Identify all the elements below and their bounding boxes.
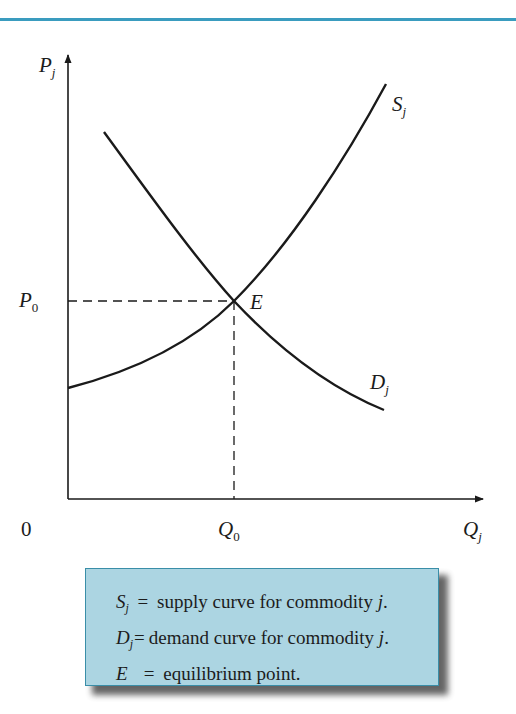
legend-tail: .: [384, 627, 389, 648]
x-axis-label-sub: j: [478, 529, 482, 544]
demand-label-main: D: [370, 370, 385, 394]
legend-symbol-main: D: [116, 627, 130, 648]
legend-text: demand curve for commodity: [149, 627, 379, 648]
legend-row-demand: Dj=demand curve for commodity j.: [116, 623, 438, 659]
demand-curve: [104, 132, 384, 410]
supply-label-sub: j: [403, 104, 407, 119]
legend-text: supply curve for commodity: [157, 591, 378, 612]
legend-equals: =: [134, 623, 145, 653]
q0-label-main: Q: [218, 517, 233, 541]
legend-row-equilibrium: E = equilibrium point.: [116, 659, 438, 689]
x-axis-label-main: Q: [463, 517, 478, 541]
legend-tail: .: [383, 591, 388, 612]
legend-symbol: Dj: [116, 623, 133, 659]
demand-label: Dj: [370, 372, 389, 396]
y-axis-label: Pj: [39, 55, 55, 79]
legend-symbol-main: S: [116, 591, 126, 612]
origin-label: 0: [21, 519, 32, 540]
q0-label-sub: 0: [233, 529, 240, 544]
equilibrium-label-main: E: [250, 290, 263, 314]
p0-label: P0: [19, 290, 38, 314]
legend-symbol: E: [116, 659, 135, 689]
equilibrium-label: E: [250, 292, 263, 313]
legend-text: equilibrium point.: [163, 663, 300, 684]
legend-symbol-main: E: [116, 663, 128, 684]
supply-label: Sj: [392, 94, 406, 118]
p0-label-sub: 0: [32, 300, 39, 315]
legend-equals: =: [144, 659, 155, 689]
legend-row-supply: Sj = supply curve for commodity j.: [116, 587, 438, 623]
legend-symbol-sub: j: [130, 637, 133, 651]
demand-label-sub: j: [385, 382, 389, 397]
supply-label-main: S: [392, 92, 403, 116]
legend-symbol: Sj: [116, 587, 129, 623]
origin-label-main: 0: [21, 517, 32, 541]
x-axis-label: Qj: [463, 519, 482, 543]
q0-label: Q0: [218, 519, 240, 543]
legend-equals: =: [138, 587, 149, 617]
supply-curve: [68, 84, 386, 388]
y-axis-label-main: P: [39, 53, 52, 77]
p0-label-main: P: [19, 288, 32, 312]
legend-symbol-sub: j: [126, 601, 129, 615]
legend-box: Sj = supply curve for commodity j. Dj=de…: [85, 568, 439, 686]
y-axis-label-sub: j: [52, 65, 56, 80]
